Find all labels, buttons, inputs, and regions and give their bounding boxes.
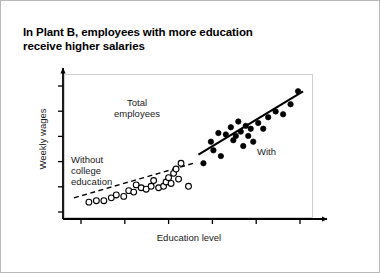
chart-title-line-1: In Plant B, employees with more educatio… <box>23 25 323 39</box>
figure-panel: In Plant B, employees with more educatio… <box>0 0 380 273</box>
chart-title-line-2: receive higher salaries <box>23 39 323 53</box>
annotation-with-college: With <box>257 146 276 157</box>
chart-title: In Plant B, employees with more educatio… <box>23 25 323 53</box>
annotation-without-college: Withoutcollegeeducation <box>71 154 131 187</box>
x-axis-label: Education level <box>114 232 264 243</box>
annotation-total-employees: Totalemployees <box>105 97 169 119</box>
y-axis-label: Weekly wages <box>37 89 48 189</box>
